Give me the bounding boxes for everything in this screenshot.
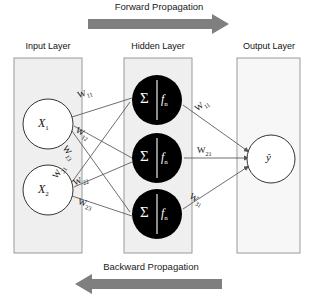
weight-label-h-w21: W21 [197,145,212,157]
output-node-yhat-label: ŷ [266,151,271,163]
hidden-node-h2-activation: fn [161,150,168,166]
neural-network-diagram: Forward Propagation Backward Propagation… [0,0,309,302]
input-layer-label: Input Layer [8,41,88,51]
forward-propagation-label: Forward Propagation [94,1,224,12]
hidden-node-h3-activation: fn [161,206,168,222]
output-node-yhat [247,135,295,183]
output-layer-label: Output Layer [229,41,309,51]
input-node-x1-label: X1 [38,116,49,132]
backward-propagation-arrow [75,274,222,294]
hidden-layer-label: Hidden Layer [118,41,198,51]
backward-propagation-label: Backward Propagation [86,261,216,272]
forward-propagation-arrow [88,14,229,34]
input-node-x2-label: X2 [38,182,49,198]
hidden-node-h1-activation: fn [161,92,168,108]
hidden-node-h1-sum: Σ [140,90,149,107]
hidden-node-h2-sum: Σ [140,148,149,165]
hidden-node-h3-sum: Σ [140,204,149,221]
